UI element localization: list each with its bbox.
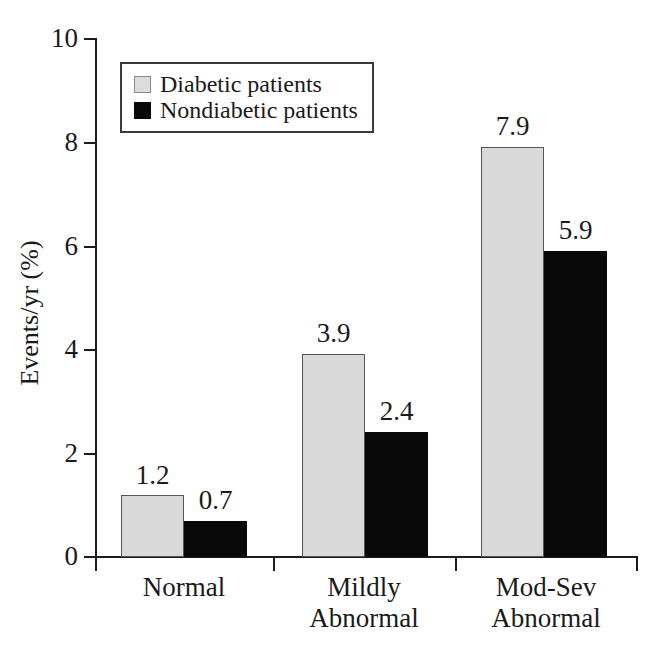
x-category-label-mildly-abnormal: Mildly Abnormal bbox=[273, 572, 455, 634]
y-tick-label-10-wrap: 10 bbox=[28, 25, 78, 52]
y-tick-label-2: 2 bbox=[34, 440, 78, 467]
legend-swatch-nondiabetic-icon bbox=[134, 102, 151, 119]
x-tick-0 bbox=[95, 557, 97, 571]
y-tick-label-4: 4 bbox=[34, 336, 78, 363]
x-tick-1 bbox=[273, 557, 275, 571]
bar-diabetic-mildly-abnormal bbox=[302, 354, 365, 557]
legend-swatch-diabetic-icon bbox=[134, 76, 151, 93]
bar-label-nondiabetic-normal: 0.7 bbox=[174, 487, 257, 514]
bar-label-diabetic-mildly-abnormal: 3.9 bbox=[292, 320, 375, 347]
y-tick-label-6: 6 bbox=[34, 233, 78, 260]
bar-diabetic-mod-sev-abnormal bbox=[481, 147, 544, 557]
y-tick-label-8: 8 bbox=[34, 129, 78, 156]
bar-label-diabetic-mod-sev-abnormal: 7.9 bbox=[471, 113, 554, 140]
y-tick-label-6-wrap: 6 bbox=[28, 233, 78, 260]
bar-label-nondiabetic-mod-sev-abnormal: 5.9 bbox=[534, 217, 617, 244]
legend-label-nondiabetic: Nondiabetic patients bbox=[160, 98, 358, 122]
y-tick-label-4-wrap: 4 bbox=[28, 336, 78, 363]
y-tick-label-2-wrap: 2 bbox=[28, 440, 78, 467]
x-category-label-mildly-abnormal-line2: Abnormal bbox=[273, 603, 455, 634]
y-tick-label-0: 0 bbox=[34, 543, 78, 570]
chart-legend: Diabetic patients Nondiabetic patients bbox=[120, 62, 374, 133]
y-tick-label-0-wrap: 0 bbox=[28, 543, 78, 570]
bar-label-nondiabetic-mildly-abnormal: 2.4 bbox=[355, 398, 438, 425]
legend-item-nondiabetic: Nondiabetic patients bbox=[134, 97, 358, 123]
bar-nondiabetic-normal bbox=[184, 521, 247, 557]
chart-figure: Events/yr (%) 10 8 6 4 2 0 1.2 0.7 Norma… bbox=[0, 0, 653, 651]
x-tick-3 bbox=[636, 557, 638, 571]
x-tick-2 bbox=[455, 557, 457, 571]
y-axis-line bbox=[95, 38, 97, 558]
bar-label-diabetic-normal: 1.2 bbox=[111, 462, 194, 489]
legend-label-diabetic: Diabetic patients bbox=[160, 72, 322, 96]
x-category-label-normal-line1: Normal bbox=[95, 572, 273, 603]
y-tick-label-10: 10 bbox=[34, 25, 78, 52]
x-category-label-mod-sev-abnormal: Mod-Sev Abnormal bbox=[455, 572, 637, 634]
legend-item-diabetic: Diabetic patients bbox=[134, 71, 358, 97]
bar-nondiabetic-mod-sev-abnormal bbox=[544, 251, 607, 557]
x-category-label-normal: Normal bbox=[95, 572, 273, 603]
x-category-label-mildly-abnormal-line1: Mildly bbox=[273, 572, 455, 603]
bar-nondiabetic-mildly-abnormal bbox=[365, 432, 428, 557]
y-tick-label-8-wrap: 8 bbox=[28, 129, 78, 156]
x-category-label-mod-sev-abnormal-line1: Mod-Sev bbox=[455, 572, 637, 603]
x-category-label-mod-sev-abnormal-line2: Abnormal bbox=[455, 603, 637, 634]
